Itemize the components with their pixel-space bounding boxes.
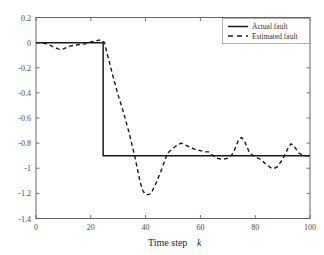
y-tick-label: -1.2 xyxy=(18,189,31,198)
x-axis-ticks xyxy=(36,18,310,219)
series-line-estimated-fault xyxy=(36,40,310,195)
y-tick-label: -1.4 xyxy=(18,215,31,224)
y-axis-tick-labels: 0.20-0.2-0.4-0.6-0.8-1-1.2-1.4 xyxy=(18,14,31,224)
series-line-actual-fault xyxy=(36,43,310,156)
x-tick-label: 80 xyxy=(251,223,259,232)
legend-label-actual-fault: Actual fault xyxy=(252,22,289,31)
fault-estimation-line-chart: 020406080100 0.20-0.2-0.4-0.6-0.8-1-1.2-… xyxy=(0,0,324,255)
x-axis-title: Time step k xyxy=(148,237,202,248)
legend-label-estimated-fault: Estimated fault xyxy=(252,32,299,41)
y-tick-label: -0.4 xyxy=(18,89,31,98)
y-tick-label: -1 xyxy=(24,164,31,173)
y-axis-ticks xyxy=(36,18,310,219)
y-tick-label: -0.6 xyxy=(18,114,31,123)
y-tick-label: 0.2 xyxy=(21,14,31,23)
x-axis-title-variable: k xyxy=(197,237,202,248)
x-axis-tick-labels: 020406080100 xyxy=(34,223,316,232)
y-tick-label: -0.2 xyxy=(18,64,31,73)
x-tick-label: 20 xyxy=(87,223,95,232)
legend: Actual fault Estimated fault xyxy=(223,19,310,44)
axis-box xyxy=(36,18,310,219)
x-tick-label: 0 xyxy=(34,223,38,232)
x-tick-label: 100 xyxy=(304,223,316,232)
figure-container: 020406080100 0.20-0.2-0.4-0.6-0.8-1-1.2-… xyxy=(0,0,324,255)
y-tick-label: -0.8 xyxy=(18,139,31,148)
x-tick-label: 40 xyxy=(142,223,150,232)
y-tick-label: 0 xyxy=(27,39,31,48)
plot-axes xyxy=(36,18,310,219)
x-axis-title-text: Time step xyxy=(148,237,187,248)
x-tick-label: 60 xyxy=(196,223,204,232)
